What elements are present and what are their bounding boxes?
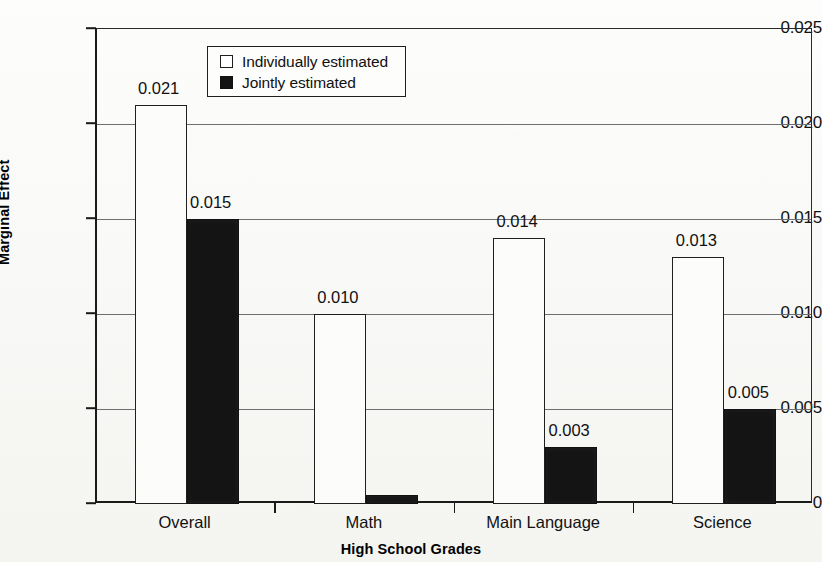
bar-value-label: 0.014: [496, 212, 537, 231]
x-tick-mark: [454, 503, 456, 513]
legend-label-individually-estimated: Individually estimated: [242, 53, 388, 71]
x-category-label-math: Math: [346, 513, 383, 532]
bar-science-jointly-estimated: [724, 409, 776, 504]
bar-value-label: 0.015: [190, 193, 231, 212]
plot-area: [95, 28, 812, 503]
chart-legend: Individually estimated Jointly estimated: [207, 46, 406, 97]
bar-science-individually-estimated: [672, 257, 724, 504]
legend-swatch-white-square-icon: [220, 55, 233, 68]
bar-value-label: 0.010: [317, 288, 358, 307]
legend-item-jointly-estimated: Jointly estimated: [220, 72, 405, 93]
legend-label-jointly-estimated: Jointly estimated: [242, 74, 356, 92]
bar-value-label: 0.005: [728, 383, 769, 402]
y-axis-title: Marginal Effect: [0, 160, 12, 265]
bar-value-label: 0.003: [548, 421, 589, 440]
chart-page: Marginal Effect 00.0050.0100.0150.0200.0…: [0, 0, 822, 562]
gridline: [97, 124, 811, 125]
bar-math-jointly-estimated: [366, 495, 418, 505]
x-tick-mark: [274, 503, 276, 513]
legend-item-individually-estimated: Individually estimated: [220, 51, 405, 72]
bar-main-language-jointly-estimated: [545, 447, 597, 504]
bar-math-individually-estimated: [314, 314, 366, 504]
bar-overall-jointly-estimated: [187, 219, 239, 504]
bar-value-label: 0.013: [676, 231, 717, 250]
x-category-label-science: Science: [693, 513, 752, 532]
bar-main-language-individually-estimated: [493, 238, 545, 504]
legend-swatch-black-square-icon: [220, 76, 233, 89]
x-category-label-overall: Overall: [158, 513, 210, 532]
bar-value-label: 0.021: [138, 79, 179, 98]
x-tick-mark: [633, 503, 635, 513]
bar-overall-individually-estimated: [135, 105, 187, 504]
x-axis-title: High School Grades: [0, 541, 822, 557]
x-category-label-main-language: Main Language: [486, 513, 600, 532]
